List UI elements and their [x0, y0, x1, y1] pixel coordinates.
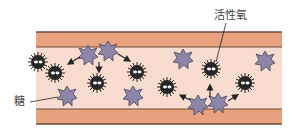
sugar-label: 糖 [14, 96, 25, 108]
active-oxygen-label: 活性氧 [214, 10, 247, 22]
vessel-diagram [0, 0, 293, 136]
